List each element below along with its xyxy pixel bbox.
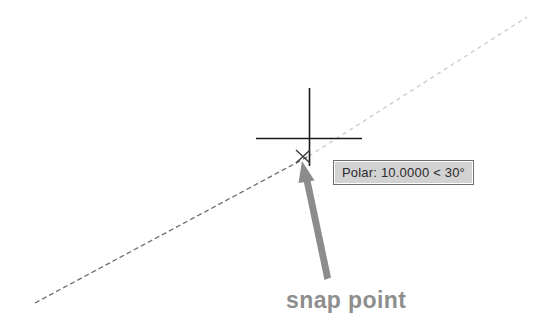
illustration-canvas: Polar: 10.0000 < 30° snap point xyxy=(0,0,548,332)
snap-point-annotation-label: snap point xyxy=(286,287,406,314)
polar-tracking-line-far xyxy=(309,17,527,156)
polar-tooltip-text: Polar: 10.0000 < 30° xyxy=(342,165,465,180)
snap-point-marker-icon xyxy=(296,150,310,163)
annotation-arrow-icon xyxy=(299,161,332,280)
polar-tooltip: Polar: 10.0000 < 30° xyxy=(333,160,474,185)
polar-tracking-line-near xyxy=(35,156,309,303)
